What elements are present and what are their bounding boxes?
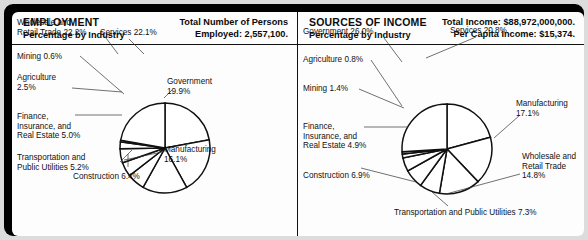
- card-body: EMPLOYMENT Percentage by Industry Total …: [12, 12, 584, 236]
- panel-sources-of-income: SOURCES OF INCOME Percentage by Industry…: [298, 12, 584, 236]
- pie-slice-label: Manufacturing 16.1%: [164, 145, 216, 164]
- pie-slice-label: Agriculture 0.8%: [303, 55, 363, 65]
- pie-label-leader-line: [384, 38, 402, 62]
- pie-label-leader-line: [80, 56, 124, 94]
- pie-slice-label: Transportation and Public Utilities 7.3%: [394, 208, 537, 218]
- pie-slice-label: Services 22.1%: [100, 28, 157, 38]
- pie-slice-label: Government 19.9%: [167, 77, 212, 96]
- pie-label-leader-line: [129, 39, 144, 54]
- pie-slice: [402, 104, 447, 152]
- pie-label-leader-line: [494, 115, 520, 138]
- panel-employment: EMPLOYMENT Percentage by Industry Total …: [12, 12, 297, 236]
- pie-slice-label: Transportation and Public Utilities 5.2%: [17, 153, 89, 172]
- pie-slice: [121, 103, 165, 148]
- pie-slice-label: Government 26.0%: [303, 27, 374, 37]
- pie-slice-label: Mining 0.6%: [17, 52, 62, 62]
- pie-slice-label: Finance, Insurance, and Real Estate 4.9%: [303, 122, 366, 151]
- pie-slice-label: Construction 6.4%: [73, 172, 140, 182]
- pie-slice-label: Mining 1.4%: [303, 84, 348, 94]
- card-outer-border: EMPLOYMENT Percentage by Industry Total …: [4, 4, 584, 236]
- pie-label-leader-line: [426, 37, 476, 58]
- pie-label-leader-line: [72, 88, 122, 92]
- pie-slice-label: Finance, Insurance, and Real Estate 5.0%: [17, 112, 80, 141]
- pie-slice-label: Construction 6.9%: [303, 171, 370, 181]
- pie-slice-label: Wholesale and Retail Trade 14.8%: [522, 152, 576, 181]
- pie-slice-label: Services 20.8%: [450, 26, 507, 36]
- pie-label-leader-line: [371, 60, 402, 106]
- pie-slice-label: Manufacturing 17.1%: [516, 99, 568, 118]
- pie-slice-label: Agriculture 2.5%: [17, 73, 56, 92]
- pie-slice-label: Wholesale and Retail Trade 22.2%: [17, 18, 87, 37]
